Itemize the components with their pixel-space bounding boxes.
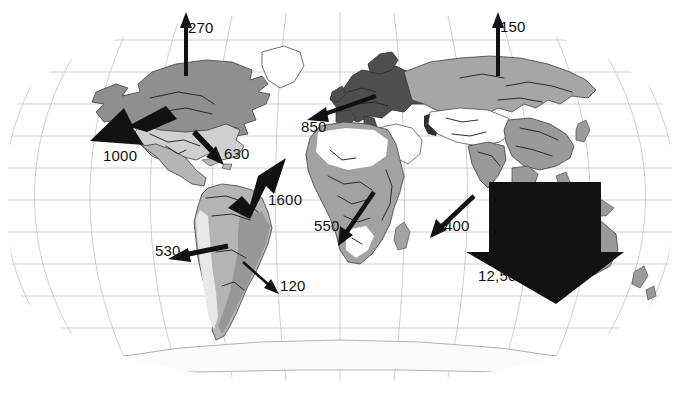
flow-label-south-america-north: 1600 — [268, 192, 302, 207]
land-antarctica — [110, 340, 620, 376]
flow-label-africa-southwest: 550 — [314, 218, 340, 233]
flow-label-north-america-south: 630 — [224, 146, 250, 161]
land-greenland — [262, 46, 304, 88]
map-canvas — [0, 0, 679, 393]
flow-label-south-america-south: 120 — [280, 278, 306, 293]
flow-arrow-southeast-asia — [466, 182, 624, 304]
land-japan — [576, 120, 590, 142]
land-new-zealand — [632, 266, 656, 300]
flow-label-asia-north: 150 — [500, 19, 526, 34]
flow-label-south-america-west: 530 — [155, 243, 181, 258]
flow-label-europe-west: 850 — [301, 119, 327, 134]
flow-label-africa-east: 400 — [444, 218, 470, 233]
flow-label-north-america-west: 1000 — [103, 148, 137, 163]
land-madagascar — [394, 222, 410, 250]
land-central-asia — [428, 108, 512, 146]
flow-label-southeast-asia: 12,500 — [478, 268, 525, 283]
land-india — [468, 142, 506, 188]
flow-label-north-america-north: 270 — [188, 20, 214, 35]
world-migration-flow-map: 270 150 1000 850 630 1600 530 120 550 40… — [0, 0, 679, 393]
land-east-asia — [504, 118, 574, 170]
